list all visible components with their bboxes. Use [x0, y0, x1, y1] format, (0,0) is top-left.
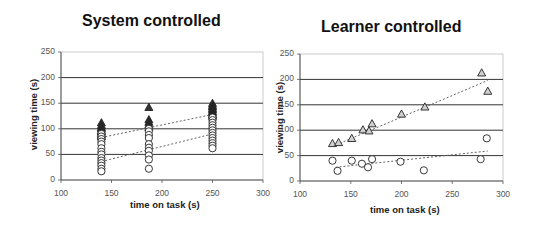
data-point	[483, 135, 490, 142]
data-point	[478, 69, 486, 76]
y-tick-label: 250	[37, 46, 55, 56]
y-tick-label: 250	[276, 48, 294, 58]
x-tick-label: 150	[341, 189, 361, 199]
series-triangle-open	[328, 69, 491, 147]
y-tick-label: 0	[37, 174, 55, 184]
x-tick-label: 250	[203, 188, 223, 198]
y-tick-label: 200	[37, 72, 55, 82]
chart-panel-system-controlled: System controlled viewing time (s) time …	[0, 0, 269, 226]
y-tick-label: 50	[37, 148, 55, 158]
series-triangle-filled	[97, 99, 216, 139]
y-tick-label: 150	[276, 99, 294, 109]
data-point	[484, 87, 492, 94]
data-point	[209, 145, 216, 152]
x-tick-label: 200	[392, 189, 412, 199]
data-point	[145, 156, 152, 163]
data-point	[477, 156, 484, 163]
data-point	[368, 120, 376, 127]
x-tick-label: 100	[290, 189, 310, 199]
data-point	[98, 168, 105, 175]
data-point	[145, 103, 153, 110]
data-point	[348, 134, 356, 141]
plot-area	[0, 0, 269, 226]
data-point	[398, 110, 406, 117]
y-tick-label: 0	[276, 175, 294, 185]
series-circle-open	[98, 114, 216, 175]
data-point	[145, 165, 152, 172]
y-tick-label: 100	[37, 123, 55, 133]
x-tick-label: 150	[102, 188, 122, 198]
data-point	[348, 157, 355, 164]
x-tick-label: 300	[493, 189, 513, 199]
data-point	[368, 156, 375, 163]
y-tick-label: 200	[276, 73, 294, 83]
x-tick-label: 100	[51, 188, 71, 198]
x-tick-label: 200	[152, 188, 172, 198]
data-point	[421, 103, 429, 110]
data-point	[334, 167, 341, 174]
data-point	[397, 158, 404, 165]
x-tick-label: 250	[442, 189, 462, 199]
data-point	[420, 167, 427, 174]
y-tick-label: 50	[276, 150, 294, 160]
data-point	[364, 164, 371, 171]
y-tick-label: 100	[276, 124, 294, 134]
data-point	[335, 138, 343, 145]
y-tick-label: 150	[37, 97, 55, 107]
chart-panel-learner-controlled: Learner controlled viewing time (s) time…	[269, 0, 538, 226]
data-point	[329, 157, 336, 164]
